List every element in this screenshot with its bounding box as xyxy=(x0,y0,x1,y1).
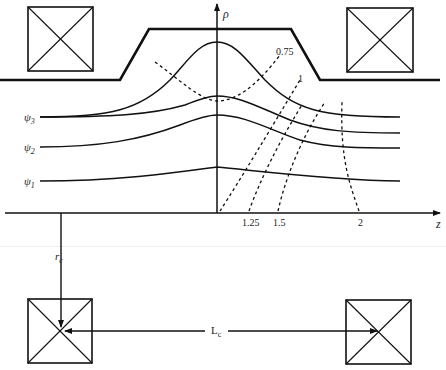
coil-bottom-right xyxy=(346,300,411,364)
contour-label-1-25: 1.25 xyxy=(242,217,260,228)
contour-1 xyxy=(220,80,300,211)
contour-label-1-5: 1.5 xyxy=(273,217,286,228)
coil-top-right xyxy=(347,8,413,72)
magnetic-mirror-diagram: ρ z ψ3 ψ2 ψ1 0.75 1 1.25 1.5 2 rc xyxy=(0,0,446,370)
contour-label-2: 2 xyxy=(358,217,363,228)
coil-radius-label: rc xyxy=(55,250,63,265)
coil-separation-label: Lc xyxy=(211,324,222,339)
z-axis-label: z xyxy=(435,217,441,231)
rho-axis-label: ρ xyxy=(222,7,229,21)
psi1-label: ψ1 xyxy=(24,175,35,190)
contour-2 xyxy=(342,102,359,211)
contour-label-0-75: 0.75 xyxy=(276,46,294,57)
psi3-label: ψ3 xyxy=(24,111,35,126)
psi2-label: ψ2 xyxy=(24,141,35,156)
contour-label-1: 1 xyxy=(298,73,303,84)
coil-top-left xyxy=(28,7,93,71)
